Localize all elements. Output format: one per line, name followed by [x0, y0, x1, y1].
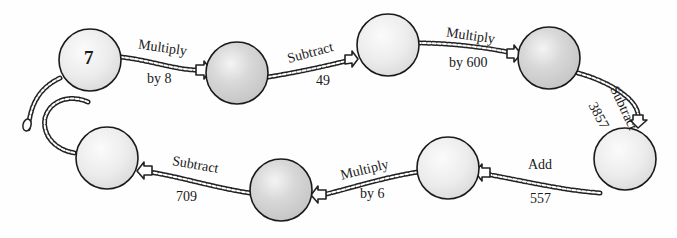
op-2-line2: 49	[316, 74, 330, 88]
op-5-line1: Add	[528, 158, 552, 172]
node-6	[417, 137, 479, 199]
arrow-right-icon	[345, 51, 358, 67]
node-2	[206, 42, 268, 104]
op-5-line2: 557	[530, 192, 551, 206]
node-7	[250, 159, 312, 221]
diagram-canvas	[0, 0, 677, 238]
arrow-left-icon	[311, 186, 326, 203]
op-1-line2: by 8	[147, 72, 172, 86]
node-1-value: 7	[84, 48, 94, 67]
op-6-line2: by 6	[360, 187, 385, 201]
arrow-left-icon	[137, 162, 152, 179]
node-3	[357, 14, 419, 76]
op-7-line2: 709	[176, 190, 197, 204]
node-8	[76, 127, 138, 189]
node-5	[594, 128, 656, 190]
number-chain-diagram: 7 Multiply by 8 Subtract 49 Multiply by …	[0, 0, 677, 238]
op-3-line2: by 600	[449, 56, 488, 70]
node-4	[518, 27, 580, 89]
chain-end-ring-icon	[22, 118, 33, 132]
